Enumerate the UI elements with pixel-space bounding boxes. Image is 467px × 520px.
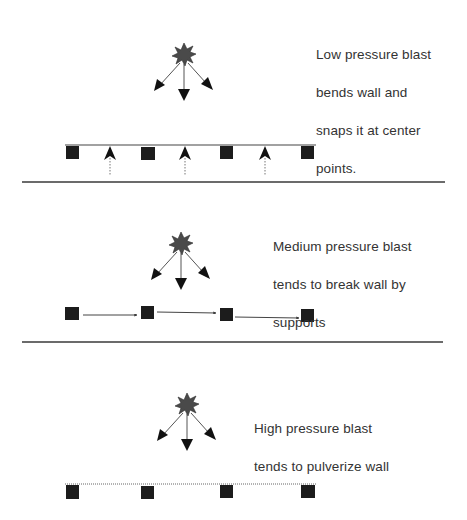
caption-low-pressure: Low pressure blast bends wall and snaps … xyxy=(316,26,431,197)
caption-line: bends wall and xyxy=(316,83,431,102)
wall-support xyxy=(220,308,233,321)
up-arrow-icon xyxy=(104,146,116,176)
panel-low-pressure xyxy=(65,43,316,176)
caption-line: High pressure blast xyxy=(254,419,389,438)
wall-support xyxy=(65,307,79,320)
caption-line: snaps it at center xyxy=(316,121,431,140)
wall-support xyxy=(141,306,154,319)
wall-support xyxy=(220,146,233,159)
wall-segment-arrow xyxy=(157,312,216,313)
caption-medium-pressure: Medium pressure blast tends to break wal… xyxy=(273,218,412,351)
caption-line: tends to pulverize wall xyxy=(254,457,389,476)
wall-support xyxy=(220,485,233,498)
wall-support xyxy=(301,146,314,159)
explosion-star-icon xyxy=(169,232,193,255)
wall-support xyxy=(141,147,155,160)
up-arrow-icon xyxy=(259,146,271,176)
caption-high-pressure: High pressure blast tends to pulverize w… xyxy=(254,400,389,495)
explosion-star-icon xyxy=(172,43,196,66)
caption-line: points. xyxy=(316,159,431,178)
caption-line: supports xyxy=(273,313,412,332)
blast-arrows-icon xyxy=(151,252,210,290)
wall-support xyxy=(66,485,79,499)
blast-arrows-icon xyxy=(154,63,213,101)
wall-support xyxy=(66,146,79,159)
wall-support xyxy=(141,486,154,499)
up-arrow-icon xyxy=(179,146,191,176)
caption-line: Low pressure blast xyxy=(316,45,431,64)
caption-line: Medium pressure blast xyxy=(273,237,412,256)
blast-arrows-icon xyxy=(157,413,216,451)
explosion-star-icon xyxy=(175,393,199,416)
caption-line: tends to break wall by xyxy=(273,275,412,294)
